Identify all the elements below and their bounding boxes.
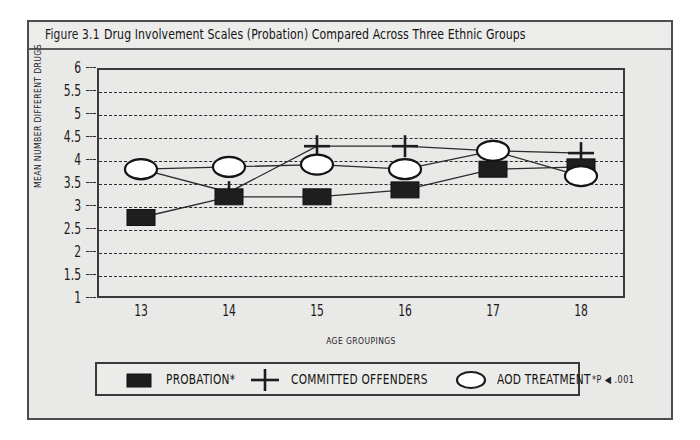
- figure-caption-bar: Figure 3.1 Drug Involvement Scales (Prob…: [29, 22, 671, 50]
- data-point-filled-square: [479, 161, 507, 177]
- legend-item: COMMITTED OFFENDERS: [248, 367, 454, 391]
- y-axis-title: MEAN NUMBER DIFFERENT DRUGS: [33, 44, 43, 188]
- data-point-filled-square: [215, 189, 243, 205]
- series-line: [141, 151, 581, 176]
- data-point-filled-square: [391, 182, 419, 198]
- data-point-open-ellipse: [477, 141, 509, 161]
- y-tick-label: 2: [49, 243, 81, 261]
- filled-square-marker: [123, 367, 157, 391]
- y-tick-label: 5: [49, 105, 81, 123]
- x-tick-label: 15: [301, 302, 333, 320]
- open-ellipse-marker: [454, 367, 488, 391]
- legend-label: COMMITTED OFFENDERS: [291, 371, 428, 387]
- data-point-filled-square: [303, 189, 331, 205]
- legend-label: PROBATION*: [166, 371, 235, 387]
- x-tick-label: 13: [125, 302, 157, 320]
- x-tick-label: 16: [389, 302, 421, 320]
- data-point-open-ellipse: [565, 166, 597, 186]
- y-tick-dash: [86, 182, 96, 183]
- data-point-open-ellipse: [125, 159, 157, 179]
- data-point-open-ellipse: [301, 155, 333, 175]
- legend-items: PROBATION*COMMITTED OFFENDERSAOD TREATME…: [97, 364, 578, 394]
- y-tick-label: 1: [49, 289, 81, 307]
- legend-item: PROBATION*: [123, 367, 248, 391]
- data-point-filled-square: [127, 210, 155, 226]
- legend-item: AOD TREATMENT: [454, 367, 608, 391]
- series-markers: [125, 141, 597, 186]
- series-line: [141, 167, 581, 218]
- plus-marker: [248, 367, 282, 391]
- y-tick-dash: [86, 136, 96, 137]
- y-tick-label: 5.5: [49, 82, 81, 100]
- data-point-open-ellipse: [213, 157, 245, 177]
- y-tick-label: 4.5: [49, 128, 81, 146]
- legend-label: AOD TREATMENT: [497, 371, 591, 387]
- significance-footnote: *P ◀ .001: [592, 374, 634, 385]
- y-tick-label: 3.5: [49, 174, 81, 192]
- y-tick-dash: [86, 205, 96, 206]
- data-point-open-ellipse: [389, 159, 421, 179]
- caption-inner: Figure 3.1 Drug Involvement Scales (Prob…: [45, 26, 605, 42]
- data-point-plus: [392, 135, 418, 157]
- figure-number: Figure 3.1: [45, 26, 100, 42]
- y-tick-dash: [86, 90, 96, 91]
- y-tick-dash: [86, 251, 96, 252]
- series-layer: [97, 68, 625, 298]
- x-tick-label: 17: [477, 302, 509, 320]
- y-tick-dash: [86, 113, 96, 114]
- x-axis-title: AGE GROUPINGS: [97, 336, 625, 346]
- figure-root: Figure 3.1 Drug Involvement Scales (Prob…: [0, 0, 700, 440]
- y-tick-label: 4: [49, 151, 81, 169]
- x-tick-label: 14: [213, 302, 245, 320]
- chart-legend: PROBATION*COMMITTED OFFENDERSAOD TREATME…: [95, 362, 580, 396]
- y-tick-dash: [86, 297, 96, 298]
- y-tick-dash: [86, 67, 96, 68]
- y-tick-label: 6: [49, 59, 81, 77]
- figure-caption-text: Drug Involvement Scales (Probation) Comp…: [104, 26, 526, 42]
- y-tick-label: 1.5: [49, 266, 81, 284]
- x-tick-label: 18: [565, 302, 597, 320]
- y-tick-label: 3: [49, 197, 81, 215]
- y-tick-label: 2.5: [49, 220, 81, 238]
- y-tick-dash: [86, 159, 96, 160]
- y-tick-dash: [86, 228, 96, 229]
- y-tick-dash: [86, 274, 96, 275]
